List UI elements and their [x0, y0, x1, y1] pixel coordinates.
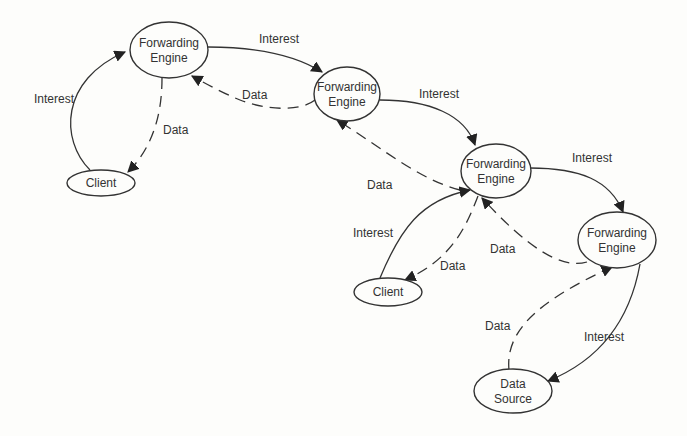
node-label: Engine — [477, 172, 515, 186]
edge-source-fe4-data — [509, 267, 612, 370]
node-label: Source — [494, 392, 532, 406]
node-label: Client — [373, 285, 404, 299]
edge-fe4-source-interest — [548, 264, 640, 381]
edge-label: Interest — [353, 226, 394, 240]
edge-fe3-fe4-interest — [530, 168, 623, 212]
node-forwarding-engine-2: Forwarding Engine — [314, 67, 380, 121]
node-client-2: Client — [354, 278, 422, 306]
node-label: Engine — [598, 241, 636, 255]
edge-label: Data — [367, 178, 393, 192]
node-forwarding-engine-4: Forwarding Engine — [578, 212, 656, 268]
edge-label: Interest — [584, 330, 625, 344]
node-label: Engine — [328, 95, 366, 109]
edge-label: Interest — [34, 92, 75, 106]
edge-label: Interest — [572, 151, 613, 165]
node-data-source: Data Source — [474, 369, 552, 413]
node-label: Data — [500, 377, 526, 391]
edge-fe2-fe3-interest — [380, 100, 475, 145]
node-label: Forwarding — [466, 157, 526, 171]
edge-client1-fe1-interest — [71, 52, 125, 170]
edge-label: Interest — [259, 32, 300, 46]
node-label: Forwarding — [139, 36, 199, 50]
edge-label: Data — [490, 242, 516, 256]
node-forwarding-engine-3: Forwarding Engine — [461, 144, 531, 198]
edge-label: Data — [440, 259, 466, 273]
node-label: Client — [86, 176, 117, 190]
node-label: Forwarding — [587, 226, 647, 240]
node-label: Engine — [150, 51, 188, 65]
edge-fe1-fe2-interest — [208, 47, 322, 72]
diagram-canvas: Interest Data Interest Data Interest Dat… — [0, 0, 687, 436]
edge-label: Data — [163, 123, 189, 137]
node-forwarding-engine-1: Forwarding Engine — [130, 22, 208, 78]
edge-label: Data — [485, 319, 511, 333]
edge-label: Interest — [419, 87, 460, 101]
node-label: Forwarding — [317, 80, 377, 94]
edge-label: Data — [242, 88, 268, 102]
node-client-1: Client — [67, 170, 135, 196]
edge-fe1-client1-data — [128, 78, 162, 172]
edge-fe3-fe2-data — [337, 120, 460, 190]
